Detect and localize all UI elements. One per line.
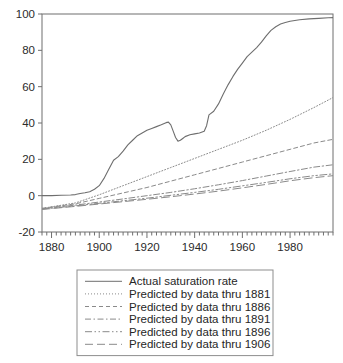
legend-label-5: Predicted by data thru 1906 [129,338,270,350]
y-tick-label: 40 [22,117,35,129]
legend-label-0: Actual saturation rate [129,275,238,287]
y-tick-label: 60 [22,81,35,93]
x-tick-label: 1980 [277,241,303,253]
legend-label-1: Predicted by data thru 1881 [129,288,270,300]
x-tick-label: 1900 [86,241,112,253]
legend-label-3: Predicted by data thru 1891 [129,313,270,325]
x-tick-label: 1920 [134,241,160,253]
y-tick-label: 100 [16,8,35,20]
plot-area: -20020406080100188019001920194019601980 [16,8,333,253]
legend-label-2: Predicted by data thru 1886 [129,301,270,313]
y-tick-label: 80 [22,44,35,56]
y-tick-label: -20 [18,226,35,238]
x-tick-label: 1940 [182,241,208,253]
legend-label-4: Predicted by data thru 1896 [129,326,270,338]
saturation-rate-line-chart: -20020406080100188019001920194019601980 … [0,0,343,363]
chart-figure: -20020406080100188019001920194019601980 … [0,0,343,363]
chart-legend: Actual saturation ratePredicted by data … [77,270,273,356]
y-tick-label: 0 [29,190,35,202]
x-tick-label: 1960 [230,241,256,253]
x-tick-label: 1880 [39,241,65,253]
y-tick-label: 20 [22,153,35,165]
